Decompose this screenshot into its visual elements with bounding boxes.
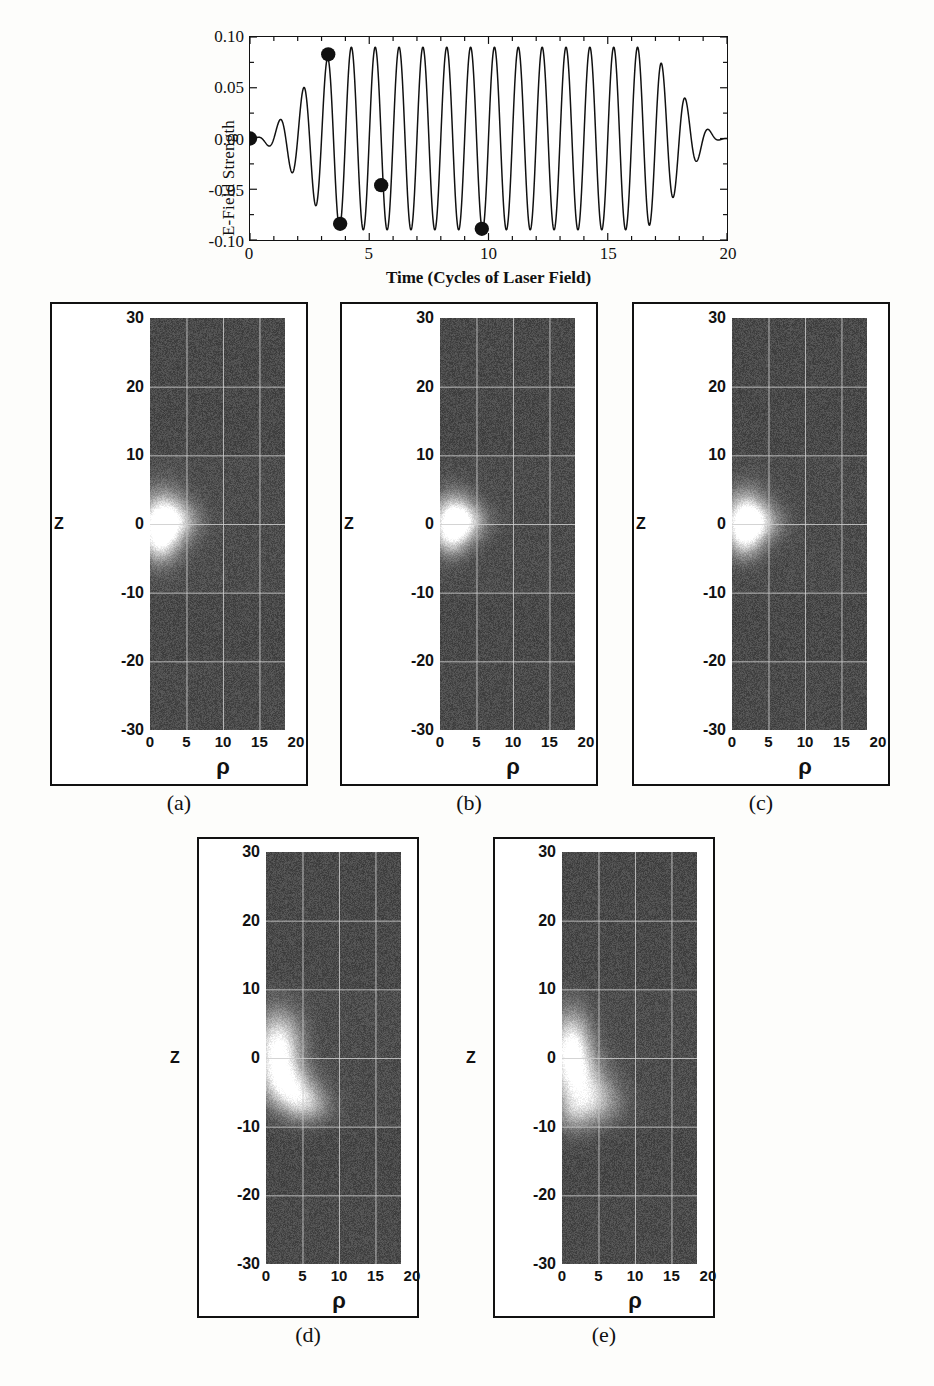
rho-tick-0: 0	[262, 1268, 270, 1283]
z-axis-name: Z	[466, 1049, 476, 1067]
z-tick-labels: 3020100-10-20-30	[500, 852, 556, 1264]
rho-tick-10: 10	[627, 1268, 644, 1283]
z-tick-labels: 3020100-10-20-30	[88, 318, 144, 730]
rho-tick-labels: 05101520	[732, 734, 878, 754]
rho-tick-15: 15	[663, 1268, 680, 1283]
wave-y-tick-0: 0.10	[186, 28, 244, 45]
wave-x-tick-0: 0	[245, 245, 254, 262]
density-image-a	[150, 318, 285, 730]
wave-x-tick-3: 15	[600, 245, 617, 262]
z-axis-name: Z	[170, 1049, 180, 1067]
rho-tick-20: 20	[578, 734, 595, 749]
z-tick-20: 20	[672, 379, 726, 395]
z-tick-20: 20	[90, 379, 144, 395]
density-image-b	[440, 318, 575, 730]
wave-x-tick-1: 5	[365, 245, 374, 262]
z-tick--30: -30	[90, 722, 144, 738]
wave-y-tick-2: 0.00	[186, 130, 244, 147]
z-tick--30: -30	[502, 1256, 556, 1272]
density-canvas	[150, 318, 285, 730]
z-tick-30: 30	[206, 844, 260, 860]
density-image-d	[266, 852, 401, 1264]
rho-tick-10: 10	[215, 734, 232, 749]
rho-axis-name: ρ	[562, 1290, 708, 1312]
panel-caption-d: (d)	[268, 1322, 348, 1348]
z-tick--10: -10	[502, 1119, 556, 1135]
rho-tick-15: 15	[251, 734, 268, 749]
z-tick-0: 0	[502, 1050, 556, 1066]
panel-caption-a: (a)	[139, 790, 219, 816]
rho-axis-name: ρ	[732, 756, 878, 778]
wave-y-tick-labels: 0.100.050.00-0.05-0.10	[186, 36, 244, 241]
z-tick-20: 20	[206, 913, 260, 929]
rho-tick-5: 5	[472, 734, 480, 749]
rho-tick-10: 10	[505, 734, 522, 749]
z-tick--20: -20	[672, 653, 726, 669]
z-tick-0: 0	[672, 516, 726, 532]
rho-tick-0: 0	[436, 734, 444, 749]
z-tick--10: -10	[380, 585, 434, 601]
rho-tick-20: 20	[870, 734, 887, 749]
z-tick-labels: 3020100-10-20-30	[378, 318, 434, 730]
wave-marker-a	[250, 131, 257, 145]
rho-tick-20: 20	[700, 1268, 717, 1283]
z-axis-name: Z	[54, 515, 64, 533]
z-tick-30: 30	[380, 310, 434, 326]
rho-tick-0: 0	[728, 734, 736, 749]
rho-tick-5: 5	[764, 734, 772, 749]
z-axis-name: Z	[636, 515, 646, 533]
z-axis-name: Z	[344, 515, 354, 533]
wave-plot-area	[249, 36, 728, 241]
wave-marker-d	[374, 178, 388, 192]
rho-tick-10: 10	[797, 734, 814, 749]
z-tick--30: -30	[380, 722, 434, 738]
rho-tick-0: 0	[558, 1268, 566, 1283]
z-tick-10: 10	[206, 981, 260, 997]
z-tick-0: 0	[90, 516, 144, 532]
rho-tick-0: 0	[146, 734, 154, 749]
rho-tick-5: 5	[298, 1268, 306, 1283]
z-tick-30: 30	[502, 844, 556, 860]
wave-x-tick-4: 20	[720, 245, 737, 262]
density-canvas	[440, 318, 575, 730]
z-tick-0: 0	[206, 1050, 260, 1066]
rho-tick-5: 5	[182, 734, 190, 749]
rho-tick-5: 5	[594, 1268, 602, 1283]
panel-caption-c: (c)	[721, 790, 801, 816]
z-tick-20: 20	[380, 379, 434, 395]
rho-axis-name: ρ	[440, 756, 586, 778]
wave-marker-c	[333, 217, 347, 231]
density-canvas	[562, 852, 697, 1264]
rho-axis-name: ρ	[150, 756, 296, 778]
z-tick-20: 20	[502, 913, 556, 929]
z-tick--10: -10	[672, 585, 726, 601]
rho-tick-20: 20	[288, 734, 305, 749]
density-image-e	[562, 852, 697, 1264]
wave-y-tick-4: -0.10	[186, 233, 244, 250]
z-tick--10: -10	[90, 585, 144, 601]
rho-axis-name: ρ	[266, 1290, 412, 1312]
rho-tick-labels: 05101520	[266, 1268, 412, 1288]
z-tick-30: 30	[90, 310, 144, 326]
z-tick--30: -30	[206, 1256, 260, 1272]
panel-caption-b: (b)	[429, 790, 509, 816]
rho-tick-15: 15	[367, 1268, 384, 1283]
z-tick--20: -20	[502, 1187, 556, 1203]
z-tick-labels: 3020100-10-20-30	[204, 852, 260, 1264]
z-tick--20: -20	[90, 653, 144, 669]
z-tick-10: 10	[672, 447, 726, 463]
rho-tick-labels: 05101520	[150, 734, 296, 754]
wave-y-tick-1: 0.05	[186, 79, 244, 96]
wave-curve	[250, 47, 727, 230]
wave-x-axis-title: Time (Cycles of Laser Field)	[249, 268, 728, 288]
z-tick-30: 30	[672, 310, 726, 326]
wave-marker-e	[475, 222, 489, 236]
z-tick--30: -30	[672, 722, 726, 738]
density-canvas	[732, 318, 867, 730]
rho-tick-20: 20	[404, 1268, 421, 1283]
z-tick-10: 10	[90, 447, 144, 463]
rho-tick-15: 15	[541, 734, 558, 749]
z-tick--20: -20	[206, 1187, 260, 1203]
wave-marker-b	[321, 47, 335, 61]
rho-tick-labels: 05101520	[440, 734, 586, 754]
